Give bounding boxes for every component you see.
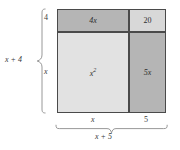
area-cell-20-label: 20	[144, 16, 152, 25]
area-cell-x-squared-label: x2	[90, 67, 97, 78]
left-total-label: x + 4	[5, 56, 22, 64]
area-model-figure: 4x 20 x2 5x 4 x x + 4 x 5 x + 5	[0, 0, 180, 150]
area-cell-4x-label: 4x	[89, 16, 97, 25]
bottom-segment-label-5: 5	[144, 116, 148, 124]
bottom-brace-icon	[55, 124, 169, 134]
bottom-segment-label-x: x	[91, 116, 95, 124]
area-cell-20: 20	[129, 9, 166, 32]
area-cell-x-squared: x2	[57, 32, 129, 113]
exponent-2: 2	[93, 67, 96, 73]
left-brace-icon	[36, 8, 46, 114]
area-cell-5x: 5x	[129, 32, 166, 113]
area-cell-5x-label: 5x	[144, 68, 152, 77]
area-cell-4x: 4x	[57, 9, 129, 32]
bottom-total-label: x + 5	[95, 133, 112, 141]
